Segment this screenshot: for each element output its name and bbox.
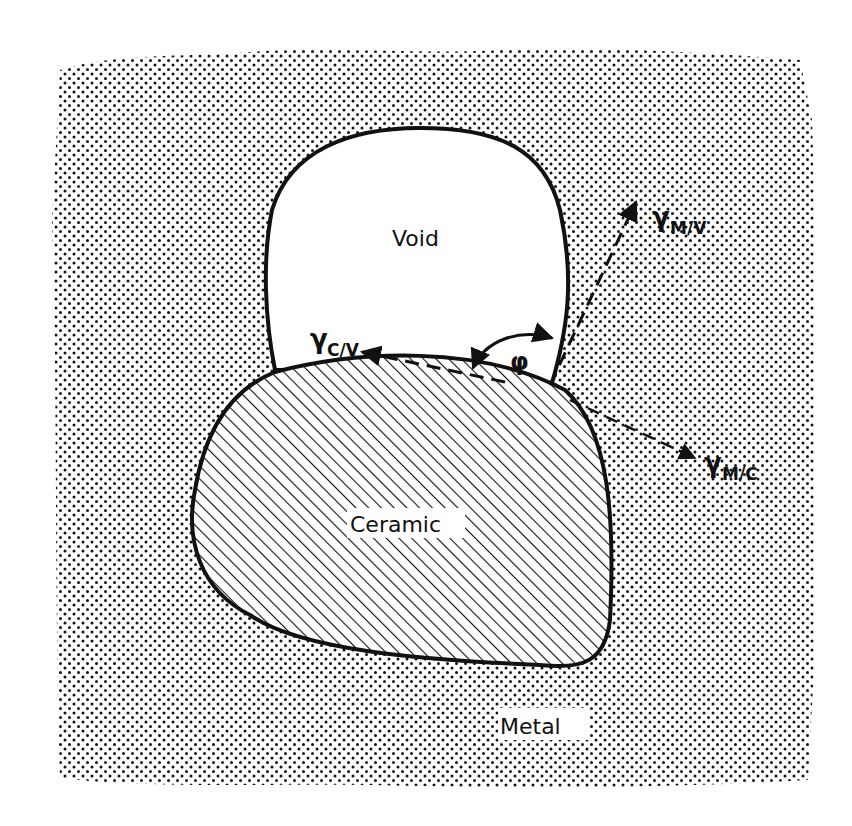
label-angle-phi: φ	[510, 348, 529, 376]
label-void: Void	[392, 226, 439, 251]
label-ceramic: Ceramic	[350, 512, 441, 537]
void-ceramic-metal-diagram: Void Ceramic Metal φ γ M/V γ C/V γ M/C	[0, 0, 852, 826]
label-gamma-cv: γ	[310, 324, 328, 354]
label-sub-mv: M/V	[670, 218, 707, 238]
label-gamma-mc: γ	[704, 448, 722, 478]
label-metal: Metal	[500, 714, 561, 739]
label-sub-mc: M/C	[722, 464, 758, 484]
label-gamma-mv: γ	[652, 202, 670, 232]
label-sub-cv: C/V	[327, 340, 360, 360]
